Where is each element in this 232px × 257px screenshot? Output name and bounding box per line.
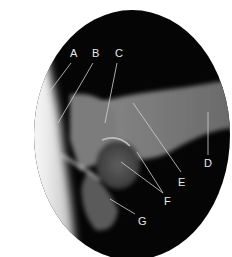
label-b: B <box>92 47 99 59</box>
label-f: F <box>164 195 171 207</box>
label-a: A <box>70 47 78 59</box>
radiograph-figure: A B C D E F G <box>0 0 232 257</box>
label-c: C <box>115 47 123 59</box>
label-d: D <box>204 157 212 169</box>
label-g: G <box>138 215 147 227</box>
label-e: E <box>178 176 185 188</box>
radiograph-image: A B C D E F G <box>0 0 232 257</box>
